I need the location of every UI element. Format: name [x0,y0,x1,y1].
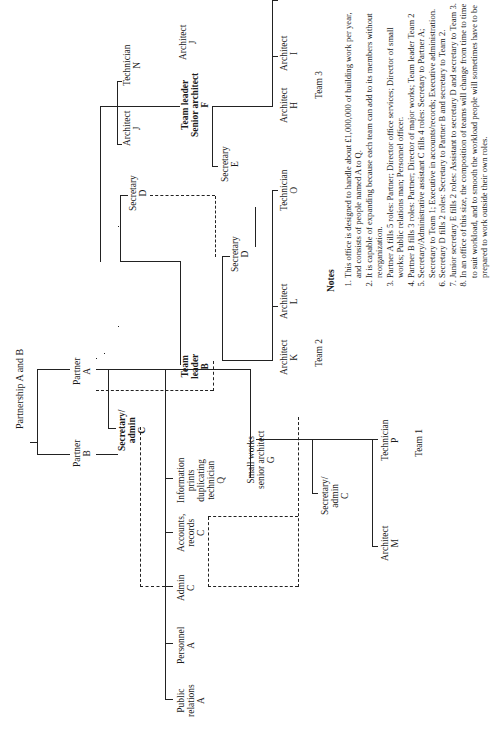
secretary-admin-c-partner-a: Secretary/adminC [117,410,147,452]
team-1-label: Team 1 [414,429,424,457]
architect-i: ArchitectI [279,36,299,71]
partner-a-label: PartnerA [72,358,92,385]
note-item: Partner A fills 5 roles: Partner; Direct… [385,2,406,278]
public-relations-a: PublicrelationsA [176,684,206,717]
root-connector [30,442,37,443]
note-item: In an office of this size, the compositi… [458,2,490,278]
partner-b-sec-link [120,196,121,262]
note-item: Secretary/Administrative assistant C fil… [416,2,437,278]
admin-c: AdminC [176,575,196,601]
information-technician-q: InformationprintsduplicatingtechnicianQ [176,458,226,503]
technician-o: TechnicianO [279,169,299,211]
note-item: Partner B fills 3 roles: Partner; Direct… [406,2,417,278]
personnel-a: PersonnelA [176,627,196,664]
secretary-d-team2: SecretaryD [230,236,250,272]
technician-p: TechnicianP [380,419,400,461]
team-2-label: Team 2 [314,339,324,367]
team-leader-b: TeamleaderB [180,354,210,379]
architect-k: ArchitectK [279,340,299,375]
partner-a-drop [96,369,108,370]
team-leader-f: Team leaderSenior architectF [180,73,210,137]
chart-title: Partnership A and B [14,349,25,429]
architect-h: ArchitectH [279,88,299,123]
office-services-bus [165,369,166,700]
team3-bus-ext [117,81,118,144]
partner-b-label: PartnerB [72,440,92,467]
note-item: Secretary D fills 2 roles: Secretary to … [437,2,448,278]
note-item: It is capable of expanding because each … [364,2,385,278]
notes-section: Notes This office is designed to handle … [326,2,490,292]
secretary-d-partner: SecretaryD [128,175,148,211]
partner-a-trunk [108,369,165,370]
technician-n: TechnicianN [122,44,142,86]
root-bracket [37,370,38,455]
root-to-a [37,369,70,370]
architect-j-label: ArchitectJ [122,111,142,146]
note-item: This office is designed to handle about … [343,2,364,278]
notes-heading: Notes [326,2,337,292]
partner-a-sec-link [108,370,109,429]
notes-list: This office is designed to handle about … [343,2,490,292]
team-3-label: Team 3 [314,71,324,99]
architect-j: ArchitectJ [178,25,198,60]
root-to-b [37,454,70,455]
architect-l: ArchitectL [279,284,299,319]
secretary-e: SecretaryE [220,146,240,182]
note-item: Junior secretary E fills 2 roles: Assist… [448,2,459,278]
accounts-records-c: Accounts,recordsC [176,514,206,552]
secretary-admin-c-team1: Secretary/adminC [320,476,350,515]
architect-m: ArchitectM [380,526,400,561]
